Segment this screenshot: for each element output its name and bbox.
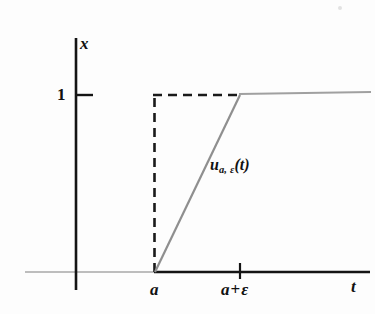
ramp-plateau-segment (239, 92, 371, 94)
a-eps-base: a (221, 280, 230, 299)
t-axis-label: t (351, 278, 356, 295)
scan-speck (338, 6, 342, 10)
figure-drawing (0, 0, 375, 314)
x-axis-label: x (80, 35, 89, 52)
function-symbol: u (210, 156, 219, 173)
ramp-rising-segment (155, 95, 240, 272)
a-eps-operator: + (230, 280, 242, 299)
x-tick-label-a-plus-epsilon: a+ε (221, 281, 248, 298)
a-eps-term: ε (241, 280, 248, 299)
figure-canvas: x t 1 a a+ε ua, ε(t) (0, 0, 375, 314)
y-tick-label-one: 1 (57, 86, 66, 103)
ramp-function-annotation: ua, ε(t) (210, 157, 250, 176)
x-tick-label-a: a (150, 281, 159, 298)
function-argument: (t) (235, 156, 250, 173)
function-subscript: a, ε (219, 164, 235, 175)
